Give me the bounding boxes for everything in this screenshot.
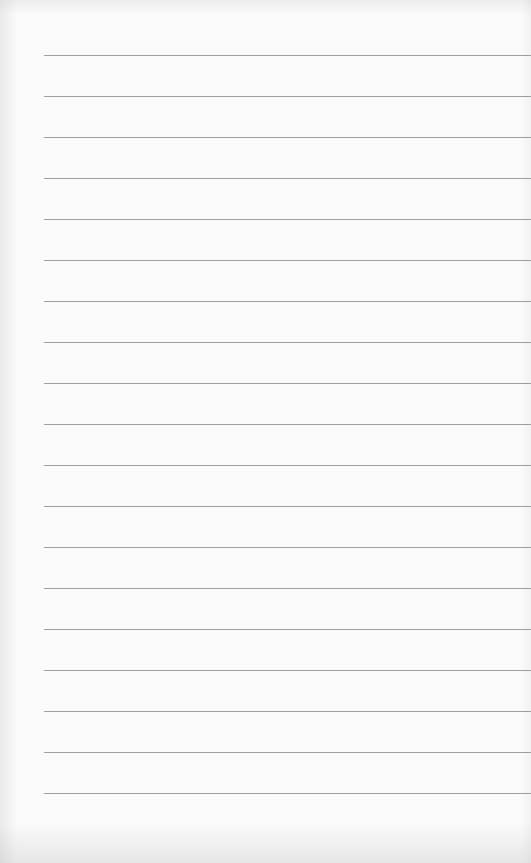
ruled-line bbox=[44, 588, 531, 589]
ruled-line bbox=[44, 711, 531, 712]
ruled-line bbox=[44, 55, 531, 56]
ruled-line bbox=[44, 465, 531, 466]
lined-paper-sheet bbox=[0, 0, 531, 863]
ruled-line bbox=[44, 547, 531, 548]
ruled-line bbox=[44, 96, 531, 97]
ruled-line bbox=[44, 629, 531, 630]
ruled-line bbox=[44, 137, 531, 138]
ruled-line bbox=[44, 342, 531, 343]
ruled-line bbox=[44, 424, 531, 425]
ruled-line bbox=[44, 219, 531, 220]
ruled-line bbox=[44, 301, 531, 302]
ruled-line bbox=[44, 793, 531, 794]
ruled-line bbox=[44, 506, 531, 507]
ruled-line bbox=[44, 670, 531, 671]
ruled-line bbox=[44, 383, 531, 384]
ruled-line bbox=[44, 752, 531, 753]
ruled-line bbox=[44, 260, 531, 261]
ruled-line bbox=[44, 178, 531, 179]
